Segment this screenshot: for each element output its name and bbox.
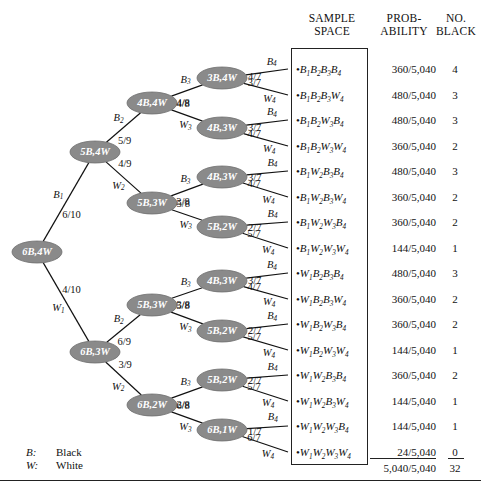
sample-space-cell: •B1B2B3B4 [296, 62, 366, 76]
tree-edge [171, 85, 202, 96]
no-black-cell: 2 [440, 368, 470, 382]
tree-node[interactable]: 4B,3W [197, 117, 247, 139]
edge-probability-label: 6/10 [62, 209, 81, 220]
no-black-cell: 2 [440, 139, 470, 153]
sample-space-cell: •W1W2W3B4 [296, 419, 366, 433]
sample-space-cell: •W1B2B3W4 [296, 292, 366, 306]
leaf-edge-outcome-label: B4 [268, 208, 278, 221]
leaf-edge-outcome-label: W4 [262, 244, 275, 257]
tree-node[interactable]: 5B,2W [197, 216, 247, 238]
probability-cell: 360/5,040 [370, 190, 436, 204]
sample-space-cell: •B1W2B3B4 [296, 164, 366, 178]
legend-value-black: Black [56, 446, 82, 459]
legend-key-black: B: [26, 446, 36, 459]
tree-edge [171, 387, 202, 398]
tree-node[interactable]: 4B,4W [127, 92, 177, 114]
node-label: 4B,3W [206, 122, 237, 133]
tree-node[interactable]: 5B,4W [70, 141, 120, 163]
leaf-edge-outcome-label: B4 [267, 310, 277, 323]
edge-probability-label: 3/8 [177, 299, 190, 310]
totals-probability: 5,040/5,040 [370, 461, 436, 475]
leaf-edge-outcome-label: W4 [262, 194, 275, 207]
edge-probability-label: 4/10 [62, 284, 81, 295]
node-label: 5B,4W [80, 146, 110, 157]
leaf-edge-outcome-label: W4 [263, 347, 276, 360]
node-label: 4B,3W [206, 275, 237, 286]
no-black-cell: 3 [440, 164, 470, 178]
probability-cell: 480/5,040 [370, 88, 436, 102]
probability-cell: 360/5,040 [370, 317, 436, 331]
edge-outcome-label: B1 [53, 189, 63, 202]
probability-cell: 24/5,040 [370, 445, 436, 459]
tree-node[interactable]: 6B,1W [197, 419, 247, 441]
tree-node[interactable]: 4B,3W [197, 270, 247, 292]
node-label: 6B,4W [22, 246, 52, 257]
tree-edge [172, 288, 203, 298]
sample-space-cell: •B1W2B3W4 [296, 190, 366, 204]
tree-node[interactable]: 5B,2W [197, 369, 247, 391]
no-black-cell: 4 [440, 62, 470, 76]
edge-probability-label: 6/9 [118, 336, 131, 347]
bullet-icon: • [296, 318, 300, 330]
leaf-edge-outcome-label: B4 [268, 361, 278, 374]
bullet-icon: • [296, 140, 300, 152]
tree-node[interactable]: 5B,2W [197, 320, 247, 342]
no-black-cell: 3 [440, 266, 470, 280]
sample-space-cell: •W1B2W3W4 [296, 343, 366, 357]
probability-cell: 360/5,040 [370, 368, 436, 382]
node-label: 5B,2W [207, 374, 237, 385]
leaf-edge-outcome-label: B4 [267, 157, 277, 170]
bullet-icon: • [296, 242, 300, 254]
leaf-edge-outcome-label: B4 [267, 259, 277, 272]
legend-key-white: W: [26, 459, 38, 472]
bullet-icon: • [296, 165, 300, 177]
tree-node[interactable]: 6B,3W [70, 341, 120, 363]
edge-outcome-label: W1 [52, 302, 64, 315]
probability-tree-figure: SAMPLE SPACE PROB- ABILITY NO. BLACK 6B,… [0, 0, 481, 494]
probability-cell: 144/5,040 [370, 343, 436, 357]
no-black-cell: 3 [440, 88, 470, 102]
bullet-icon: • [296, 89, 300, 101]
edge-outcome-label: W3 [179, 321, 192, 334]
edge-probability-label: 2/8 [176, 399, 189, 410]
probability-cell: 360/5,040 [370, 139, 436, 153]
totals-no-black: 32 [440, 461, 470, 475]
edge-probability-label: 3/8 [176, 196, 189, 207]
bullet-icon: • [296, 395, 300, 407]
probability-cell: 480/5,040 [370, 113, 436, 127]
no-black-cell: 1 [440, 241, 470, 255]
tree-edge [43, 263, 89, 342]
bullet-icon: • [296, 267, 300, 279]
leaf-edge-probability-label: 3/7 [248, 122, 261, 133]
probability-cell: 360/5,040 [370, 292, 436, 306]
node-label: 3B,4W [206, 72, 237, 83]
probability-cell: 144/5,040 [370, 419, 436, 433]
tree-node[interactable]: 5B,3W [127, 192, 177, 214]
no-black-cell: 2 [440, 190, 470, 204]
tree-node[interactable]: 5B,3W [127, 294, 177, 316]
edge-outcome-label: W3 [179, 219, 192, 232]
bottom-rule [0, 480, 481, 481]
tree-node[interactable]: 4B,3W [197, 166, 247, 188]
no-black-cell: 0 [440, 445, 470, 459]
no-black-cell: 2 [440, 215, 470, 229]
no-black-cell: 3 [440, 113, 470, 127]
node-label: 5B,2W [207, 221, 237, 232]
tree-node[interactable]: 6B,2W [127, 394, 177, 416]
bullet-icon: • [296, 293, 300, 305]
node-label: 4B,3W [206, 171, 237, 182]
leaf-edge-probability-label: 2/7 [248, 325, 261, 336]
tree-node[interactable]: 3B,4W [197, 67, 247, 89]
edge-outcome-label: B3 [181, 376, 191, 389]
sample-space-cell: •W1W2B3W4 [296, 394, 366, 408]
sample-space-cell: •B1W2W3W4 [296, 241, 366, 255]
sample-space-cell: •B1B2B3W4 [296, 88, 366, 102]
edge-outcome-label: B2 [113, 112, 123, 125]
no-black-cell: 1 [440, 419, 470, 433]
edge-outcome-label: B3 [181, 276, 191, 289]
tree-node[interactable]: 6B,4W [12, 241, 62, 263]
edge-outcome-label: B3 [181, 74, 191, 87]
bullet-icon: • [296, 63, 300, 75]
leaf-edge-outcome-label: W4 [263, 296, 276, 309]
edge-outcome-label: W2 [112, 180, 125, 193]
